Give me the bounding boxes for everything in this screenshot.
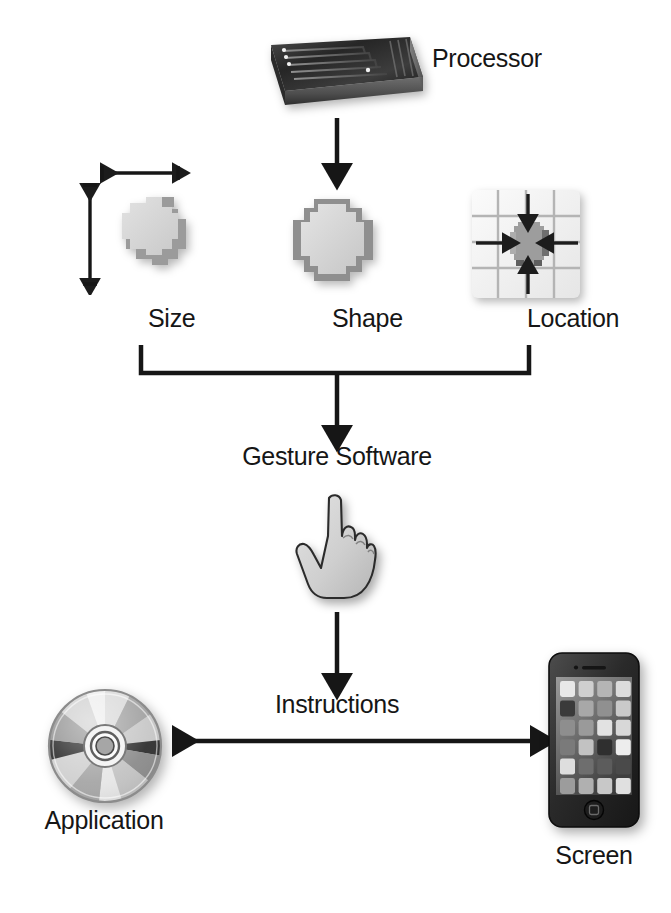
instructions-label: Instructions — [275, 692, 399, 717]
phone-app-tile — [579, 720, 594, 736]
shape-node — [270, 186, 395, 304]
application-node — [46, 687, 164, 805]
phone-app-tile — [616, 700, 631, 716]
processor-chip-icon — [245, 33, 430, 121]
phone-app-tile — [579, 759, 594, 775]
phone-app-tile — [579, 681, 594, 697]
phone-app-tile — [579, 739, 594, 755]
phone-app-tile — [560, 778, 575, 794]
processor-label: Processor — [432, 46, 542, 71]
phone-app-tile — [616, 778, 631, 794]
phone-app-tile — [597, 700, 612, 716]
phone-app-tile — [597, 681, 612, 697]
diagram-canvas: Processor — [0, 0, 671, 913]
shape-blob-icon — [270, 186, 395, 304]
phone-app-tile — [560, 700, 575, 716]
phone-app-tile — [560, 681, 575, 697]
phone-app-tile — [616, 720, 631, 736]
smartphone-icon — [546, 650, 642, 830]
size-label: Size — [148, 306, 195, 331]
size-node — [88, 178, 218, 303]
phone-app-tile — [616, 739, 631, 755]
phone-app-tile — [616, 759, 631, 775]
phone-app-tile — [579, 700, 594, 716]
shape-label: Shape — [332, 306, 403, 331]
screen-node — [546, 650, 642, 830]
phone-app-tile — [616, 681, 631, 697]
application-label: Application — [44, 808, 163, 833]
phone-app-tile — [597, 759, 612, 775]
location-grid-icon — [468, 186, 586, 304]
edge-merge-attributes — [141, 345, 529, 373]
location-node — [468, 186, 586, 304]
gesture-software-node — [287, 492, 382, 607]
phone-app-tile — [597, 739, 612, 755]
pointing-hand-icon — [287, 492, 382, 607]
screen-label: Screen — [555, 843, 632, 868]
phone-app-tile — [560, 739, 575, 755]
location-label: Location — [527, 306, 619, 331]
compact-disc-icon — [46, 687, 164, 805]
phone-app-tile — [560, 720, 575, 736]
size-dimension-arrows — [76, 160, 206, 295]
phone-app-tile — [597, 778, 612, 794]
phone-app-tile — [560, 759, 575, 775]
phone-app-tile — [597, 720, 612, 736]
gesture-software-label: Gesture Software — [242, 444, 432, 469]
phone-app-tile — [579, 778, 594, 794]
processor-node — [245, 33, 430, 121]
